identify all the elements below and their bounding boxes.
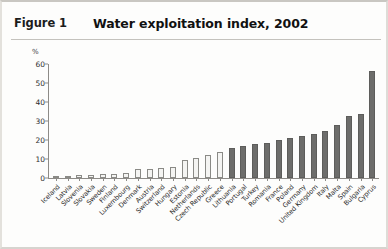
header-divider xyxy=(11,39,381,40)
figure-header: Figure 1 Water exploitation index, 2002 xyxy=(2,10,388,36)
bar[interactable] xyxy=(252,144,258,178)
bar-slot xyxy=(261,64,273,178)
bar[interactable] xyxy=(264,143,270,178)
y-tick-label: 40 xyxy=(35,98,45,107)
y-tick-mark xyxy=(45,178,48,179)
bar[interactable] xyxy=(147,169,153,179)
x-tick-mark xyxy=(103,178,104,181)
bar-slot xyxy=(179,64,191,178)
y-tick-label: 30 xyxy=(35,117,45,126)
x-tick-mark xyxy=(372,178,373,181)
x-axis-tick-labels: IcelandLatviaSloveniaSlovakiaSwedenFinla… xyxy=(49,182,379,248)
x-tick-mark xyxy=(302,178,303,181)
bar[interactable] xyxy=(158,168,164,178)
bar[interactable] xyxy=(217,152,223,178)
bar-chart: % 0102030405060 IcelandLatviaSloveniaSlo… xyxy=(2,42,388,249)
x-tick-mark xyxy=(267,178,268,181)
bar-slot xyxy=(284,64,296,178)
bar-series xyxy=(49,64,379,178)
x-tick-mark xyxy=(185,178,186,181)
x-tick-mark xyxy=(337,178,338,181)
bar[interactable] xyxy=(311,134,317,178)
bar[interactable] xyxy=(276,140,282,178)
x-tick-mark xyxy=(220,178,221,181)
x-tick-mark xyxy=(114,178,115,181)
x-tick-mark xyxy=(361,178,362,181)
bar-slot xyxy=(120,64,132,178)
y-tick-mark xyxy=(45,140,48,141)
bar[interactable] xyxy=(299,136,305,178)
x-tick-mark xyxy=(208,178,209,181)
x-label-slot: Cyprus xyxy=(366,182,378,248)
bar-slot xyxy=(109,64,121,178)
x-tick-mark xyxy=(161,178,162,181)
bar-slot xyxy=(73,64,85,178)
x-tick-mark xyxy=(91,178,92,181)
x-tick-mark xyxy=(243,178,244,181)
bar-slot xyxy=(202,64,214,178)
bar[interactable] xyxy=(182,160,188,178)
bar-slot xyxy=(331,64,343,178)
bar-slot xyxy=(343,64,355,178)
x-tick-mark xyxy=(138,178,139,181)
y-tick-label: 10 xyxy=(35,155,45,164)
bar-slot xyxy=(238,64,250,178)
x-tick-mark xyxy=(56,178,57,181)
x-axis-line xyxy=(48,178,379,179)
bar-slot xyxy=(214,64,226,178)
bar-slot xyxy=(132,64,144,178)
y-tick-label: 50 xyxy=(35,79,45,88)
bar-slot xyxy=(85,64,97,178)
y-tick-mark xyxy=(45,102,48,103)
bar-slot xyxy=(155,64,167,178)
bar-slot xyxy=(355,64,367,178)
bar[interactable] xyxy=(358,114,364,178)
bar[interactable] xyxy=(229,148,235,178)
bar[interactable] xyxy=(240,146,246,178)
x-tick-mark xyxy=(68,178,69,181)
figure-number: Figure 1 xyxy=(14,16,67,30)
bar[interactable] xyxy=(170,167,176,178)
bar-slot xyxy=(62,64,74,178)
x-tick-mark xyxy=(349,178,350,181)
x-tick-mark xyxy=(255,178,256,181)
bar-slot xyxy=(191,64,203,178)
bar[interactable] xyxy=(334,125,340,178)
bar[interactable] xyxy=(287,138,293,178)
bar[interactable] xyxy=(193,158,199,178)
bar[interactable] xyxy=(322,131,328,178)
x-tick-mark xyxy=(196,178,197,181)
bar[interactable] xyxy=(205,155,211,178)
bar-slot xyxy=(144,64,156,178)
bar-slot xyxy=(366,64,378,178)
bar-slot xyxy=(50,64,62,178)
y-axis-unit-label: % xyxy=(32,48,39,56)
plot-area xyxy=(49,64,379,178)
y-tick-mark xyxy=(45,64,48,65)
x-tick-mark xyxy=(126,178,127,181)
x-tick-mark xyxy=(290,178,291,181)
y-tick-label: 60 xyxy=(35,60,45,69)
bar-slot xyxy=(296,64,308,178)
y-tick-mark xyxy=(45,121,48,122)
y-tick-mark xyxy=(45,159,48,160)
y-tick-mark xyxy=(45,83,48,84)
y-tick-label: 20 xyxy=(35,136,45,145)
figure-panel: Figure 1 Water exploitation index, 2002 … xyxy=(0,0,388,249)
bar-slot xyxy=(97,64,109,178)
bar[interactable] xyxy=(369,71,375,178)
bar-slot xyxy=(273,64,285,178)
bar-slot xyxy=(320,64,332,178)
figure-title: Water exploitation index, 2002 xyxy=(93,16,308,31)
x-tick-mark xyxy=(279,178,280,181)
bar-slot xyxy=(226,64,238,178)
x-tick-mark xyxy=(232,178,233,181)
x-tick-mark xyxy=(325,178,326,181)
bar-slot xyxy=(167,64,179,178)
bar-slot xyxy=(308,64,320,178)
bar[interactable] xyxy=(346,116,352,178)
bar[interactable] xyxy=(135,169,141,178)
bar-slot xyxy=(249,64,261,178)
x-tick-mark xyxy=(150,178,151,181)
x-tick-mark xyxy=(79,178,80,181)
